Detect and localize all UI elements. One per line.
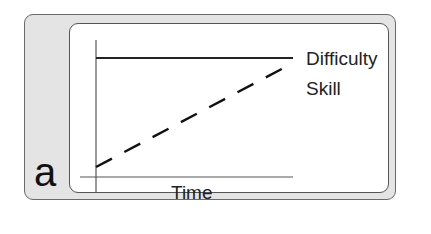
x-axis-label: Time: [171, 183, 213, 203]
legend-difficulty: Difficulty: [306, 49, 377, 69]
skill-line: [96, 63, 293, 167]
legend-skill: Skill: [306, 79, 341, 99]
chart-lines: [0, 0, 431, 234]
